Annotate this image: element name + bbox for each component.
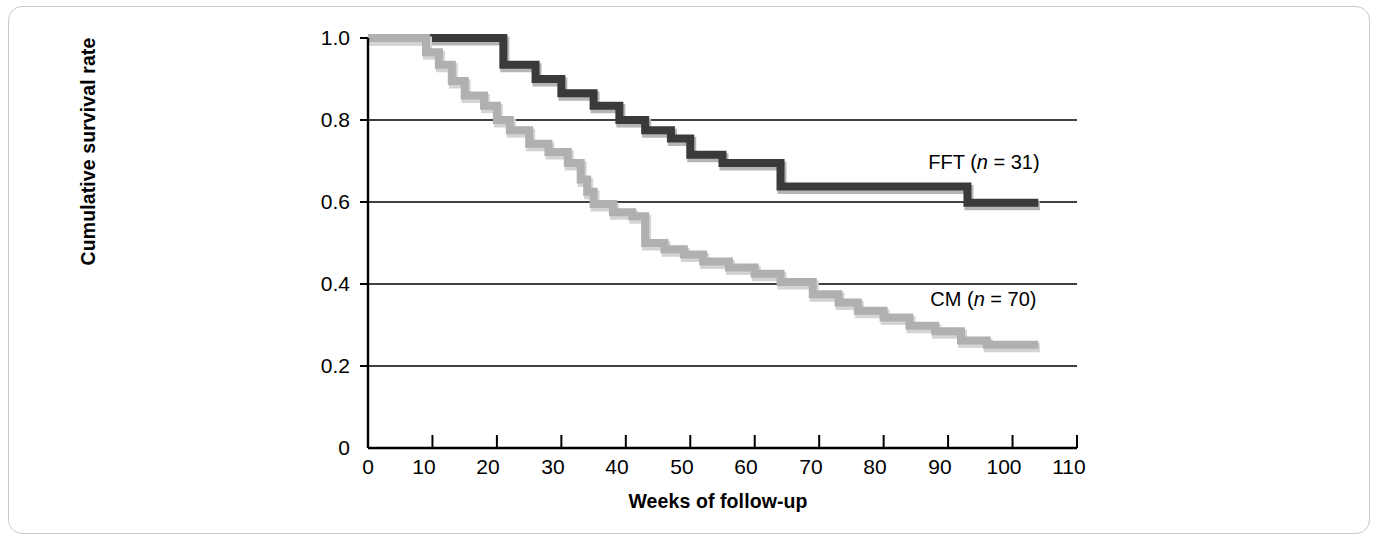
survival-chart: Cumulative survival rate Weeks of follow… [0,0,1380,543]
curve-shadow-0 [370,41,1040,206]
series-label-fft: FFT (n = 31) [928,151,1039,174]
series-label-cm: CM (n = 70) [930,288,1036,311]
plot-area [0,0,1380,543]
